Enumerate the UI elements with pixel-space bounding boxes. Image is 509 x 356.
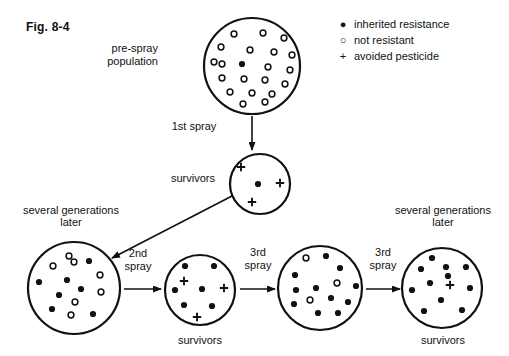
open-circle-icon	[50, 263, 56, 269]
open-circle-icon	[281, 35, 287, 41]
open-circle-icon	[303, 255, 309, 261]
open-circle-icon	[289, 52, 295, 58]
open-circle-icon	[97, 272, 103, 278]
filled-dot-icon	[182, 263, 188, 269]
arrow-second-spray	[112, 196, 232, 258]
filled-dot-icon	[445, 273, 451, 279]
population-boundary	[278, 246, 362, 330]
open-circle-icon	[262, 77, 268, 83]
open-circle-icon	[307, 297, 313, 303]
filled-dot-icon	[90, 311, 96, 317]
open-circle-icon	[269, 91, 275, 97]
filled-dot-icon	[345, 299, 351, 305]
filled-dot-icon	[335, 310, 341, 316]
filled-dot-icon	[291, 301, 297, 307]
filled-dot-icon	[181, 302, 187, 308]
open-circle-icon	[334, 280, 340, 286]
population-circles	[28, 18, 482, 334]
filled-dot-icon	[199, 286, 205, 292]
open-circle-icon	[68, 312, 74, 318]
filled-dot-icon	[209, 303, 215, 309]
population-boundary	[204, 18, 300, 114]
open-circle-icon	[231, 31, 237, 37]
open-circle-icon	[262, 99, 268, 105]
figure-canvas: Fig. 8-4 ● inherited resistance ○ not re…	[0, 0, 509, 356]
filled-dot-icon	[328, 295, 334, 301]
filled-dot-icon	[459, 307, 465, 313]
filled-dot-icon	[443, 264, 449, 270]
filled-dot-icon	[438, 297, 444, 303]
population-several-generations-later-middle	[278, 246, 362, 330]
open-circle-icon	[218, 44, 224, 50]
filled-dot-icon	[86, 258, 92, 264]
population-several-generations-later-left	[28, 242, 120, 334]
filled-dot-icon	[467, 285, 473, 291]
filled-dot-icon	[427, 280, 433, 286]
open-circle-icon	[282, 81, 288, 87]
filled-dot-icon	[239, 61, 245, 67]
filled-dot-icon	[36, 279, 42, 285]
filled-dot-icon	[337, 265, 343, 271]
filled-dot-icon	[353, 283, 359, 289]
diagram-svg	[0, 0, 509, 356]
filled-dot-icon	[172, 287, 178, 293]
filled-dot-icon	[293, 287, 299, 293]
filled-dot-icon	[56, 292, 62, 298]
filled-dot-icon	[323, 253, 329, 259]
open-circle-icon	[241, 76, 247, 82]
filled-dot-icon	[463, 264, 469, 270]
filled-dot-icon	[64, 277, 70, 283]
filled-dot-icon	[315, 310, 321, 316]
open-circle-icon	[227, 89, 233, 95]
filled-dot-icon	[418, 266, 424, 272]
open-circle-icon	[260, 30, 266, 36]
open-circle-icon	[219, 75, 225, 81]
open-circle-icon	[72, 299, 78, 305]
open-circle-icon	[71, 259, 77, 265]
open-circle-icon	[240, 101, 246, 107]
population-survivors-first-spray	[230, 154, 290, 214]
open-circle-icon	[219, 61, 225, 67]
filled-dot-icon	[409, 287, 415, 293]
filled-dot-icon	[211, 263, 217, 269]
open-circle-icon	[211, 59, 217, 65]
filled-dot-icon	[78, 286, 84, 292]
open-circle-icon	[249, 90, 255, 96]
filled-dot-icon	[313, 285, 319, 291]
open-circle-icon	[98, 289, 104, 295]
filled-dot-icon	[49, 306, 55, 312]
filled-dot-icon	[292, 272, 298, 278]
open-circle-icon	[66, 253, 72, 259]
filled-dot-icon	[429, 255, 435, 261]
filled-dot-icon	[255, 181, 261, 187]
open-circle-icon	[271, 49, 277, 55]
population-pre-spray-population	[204, 18, 300, 114]
population-survivors-third-spray-right	[402, 248, 482, 328]
population-survivors-second-spray	[165, 255, 235, 325]
population-boundary	[28, 242, 120, 334]
open-circle-icon	[265, 64, 271, 70]
open-circle-icon	[287, 67, 293, 73]
filled-dot-icon	[421, 308, 427, 314]
open-circle-icon	[247, 47, 253, 53]
